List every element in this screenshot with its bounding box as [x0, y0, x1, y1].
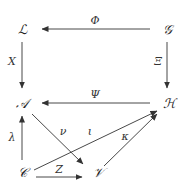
label-nu: ν — [60, 125, 67, 138]
node-G: 𝒢 — [163, 22, 175, 37]
label-kappa: κ — [120, 130, 129, 143]
node-A: 𝒜 — [16, 96, 32, 111]
label-xi: Ξ — [153, 55, 162, 68]
arrow-kappa — [104, 114, 157, 166]
label-lambda: λ — [8, 131, 16, 144]
label-psi: Ψ — [90, 88, 100, 101]
label-phi: Φ — [90, 14, 99, 27]
label-x: X — [7, 55, 17, 68]
label-z: Z — [54, 163, 63, 176]
arrow-iota — [34, 111, 157, 170]
arrow-nu — [32, 114, 83, 164]
node-L: ℒ — [18, 22, 28, 37]
label-iota: ι — [88, 125, 92, 138]
node-H: ℋ — [163, 96, 178, 111]
commutative-diagram: ℒ 𝒢 𝒜 ℋ 𝒞 𝒱 Φ X Ξ Ψ λ ν ι κ Z — [0, 0, 183, 189]
node-V: 𝒱 — [93, 165, 108, 180]
node-C: 𝒞 — [18, 165, 31, 180]
